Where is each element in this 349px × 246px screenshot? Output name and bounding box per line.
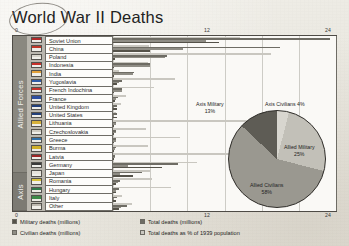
bar-pct (113, 187, 171, 189)
bar-mil (113, 92, 114, 94)
country-label-burma: Burma (45, 145, 113, 153)
bar-mil (113, 150, 114, 152)
flag-cell (27, 153, 45, 161)
legend-item: Total deaths as % of 1939 population (140, 227, 312, 238)
legend-item: Civilian deaths (millions) (12, 227, 140, 238)
country-flag-icon (31, 187, 42, 194)
pie-label-axis-military: Axis Military 13% (196, 101, 224, 114)
gridline (187, 36, 188, 211)
bar-mil (113, 83, 117, 85)
pie-label-allied-civilians: Allied Civilians 58% (250, 182, 283, 195)
flag-cell (27, 186, 45, 194)
country-label-yugoslavia: Yugoslavia (45, 78, 113, 86)
country-label-united-states: United States (45, 112, 113, 120)
chart-legend: Military deaths (millions)Total deaths (… (12, 216, 312, 238)
flag-cell (27, 203, 45, 211)
country-flag-icon (31, 195, 42, 202)
flag-cell (27, 86, 45, 94)
legend-item: Total deaths (millions) (140, 216, 312, 227)
country-flag-icon (31, 104, 42, 111)
country-flag-icon (31, 129, 42, 136)
pie-label-allied-civilians-text: Allied Civilians (250, 182, 283, 188)
pie-label-allied-military-text: Allied Military (284, 144, 315, 150)
country-label-united-kingdom: United Kingdom (45, 103, 113, 111)
legend-swatch (140, 230, 145, 235)
flag-cell (27, 78, 45, 86)
legend-label: Civilian deaths (millions) (20, 230, 80, 236)
country-label-germany: Germany (45, 161, 113, 169)
bar-mil (113, 142, 114, 144)
flag-cell (27, 178, 45, 186)
country-flag-icon (31, 95, 42, 102)
country-label-column: Soviet UnionChinaPolandIndonesiaIndiaYug… (45, 36, 113, 211)
bar-civ (113, 90, 122, 92)
legend-swatch (140, 219, 145, 224)
country-flag-icon (31, 154, 42, 161)
flag-cell (27, 94, 45, 102)
country-label-japan: Japan (45, 170, 113, 178)
country-label-italy: Italy (45, 194, 113, 202)
country-label-soviet-union: Soviet Union (45, 36, 113, 45)
pie-label-axis-military-pct: 13% (205, 108, 215, 114)
pie-label-allied-military: Allied Military 25% (284, 144, 315, 157)
flag-cell (27, 44, 45, 52)
country-flag-icon (31, 203, 42, 210)
bar-pct (113, 145, 148, 147)
legend-label: Military deaths (millions) (20, 219, 80, 225)
country-label-france: France (45, 95, 113, 103)
axis-tick-top-0: 0 (15, 27, 18, 33)
country-label-china: China (45, 45, 113, 53)
bar-pct (113, 153, 229, 155)
flag-cell (27, 103, 45, 111)
country-label-hungary: Hungary (45, 186, 113, 194)
country-flag-icon (31, 162, 42, 169)
gridline (336, 36, 337, 211)
bar-mil (113, 208, 119, 210)
legend-swatch (12, 230, 17, 235)
flag-cell (27, 69, 45, 77)
axis-tick-top-24: 24 (325, 27, 331, 33)
country-flag-icon (31, 70, 42, 77)
country-label-french-indochina: French Indochina (45, 87, 113, 95)
flag-cell (27, 194, 45, 202)
bar-mil (113, 175, 133, 177)
gridline (150, 36, 151, 211)
bar-mil (113, 117, 117, 119)
country-flag-icon (31, 145, 42, 152)
country-flag-icon (31, 79, 42, 86)
bar-mil (113, 192, 116, 194)
country-label-latvia: Latvia (45, 153, 113, 161)
flag-cell (27, 111, 45, 119)
country-flag-icon (31, 87, 42, 94)
bar-civ (113, 65, 150, 67)
legend-item: Military deaths (millions) (12, 216, 140, 227)
group-band-column: Allied Forces Axis (13, 36, 27, 211)
axis-tick-bottom-24: 24 (325, 212, 331, 218)
pie-label-allied-civilians-pct: 58% (262, 189, 272, 195)
group-band-axis: Axis (13, 173, 27, 211)
country-label-romania: Romania (45, 178, 113, 186)
country-label-indonesia: Indonesia (45, 62, 113, 70)
country-label-lithuania: Lithuania (45, 120, 113, 128)
bar-mil (113, 67, 114, 69)
bar-mil (113, 158, 114, 160)
legend-label: Total deaths (millions) (148, 219, 202, 225)
country-flag-icon (31, 170, 42, 177)
group-band-allied-label: Allied Forces (16, 80, 25, 129)
country-flag-icon (31, 120, 42, 127)
bar-pct (113, 137, 180, 139)
country-flag-icon (31, 54, 42, 61)
flag-cell (27, 119, 45, 127)
bar-pct (113, 78, 175, 80)
pie-label-allied-military-pct: 25% (294, 151, 304, 157)
country-label-greece: Greece (45, 136, 113, 144)
country-label-india: India (45, 70, 113, 78)
country-label-poland: Poland (45, 54, 113, 62)
axis-tick-top-12: 12 (204, 27, 210, 33)
bar-pct (113, 128, 146, 130)
bar-mil (113, 75, 114, 77)
bar-civ (113, 57, 165, 59)
flag-cell (27, 169, 45, 177)
flag-cell (27, 53, 45, 61)
pie-label-axis-civilians: Axis Civilians 4% (265, 101, 305, 108)
